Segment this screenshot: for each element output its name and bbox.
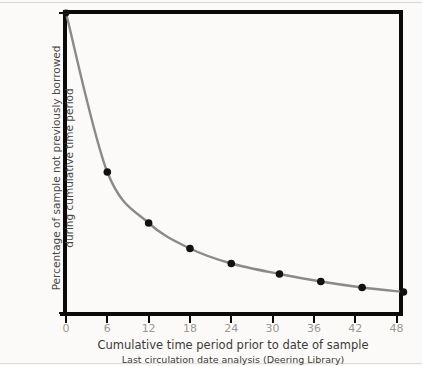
- x-tick-label: 42: [340, 323, 370, 334]
- series-line: [66, 13, 403, 292]
- x-tick-label: 6: [92, 323, 122, 334]
- x-tick-label: 30: [258, 323, 288, 334]
- x-tick-mark: [189, 316, 191, 323]
- x-axis-label: Cumulative time period prior to date of …: [6, 338, 422, 352]
- chart-figure: 0%10%20%30%40%50%60%70%80%90%100% 061218…: [0, 0, 422, 366]
- plot-area: 0%10%20%30%40%50%60%70%80%90%100% 061218…: [66, 13, 400, 313]
- data-point: [104, 168, 112, 176]
- data-point: [400, 288, 408, 296]
- x-tick-label: 48: [382, 323, 412, 334]
- data-point: [145, 219, 153, 227]
- x-tick-label: 24: [216, 323, 246, 334]
- x-tick-mark: [272, 316, 274, 323]
- x-tick-label: 12: [134, 323, 164, 334]
- series-markers: [63, 10, 408, 296]
- y-axis-label: Percentage of sample not previously borr…: [50, 3, 76, 333]
- x-tick-mark: [396, 316, 398, 323]
- x-tick-mark: [313, 316, 315, 323]
- y-axis-label-line2: during cumulative time period: [63, 3, 76, 333]
- data-point: [276, 270, 284, 278]
- x-tick-label: 36: [299, 323, 329, 334]
- x-tick-mark: [148, 316, 150, 323]
- x-axis-sublabel: Last circulation date analysis (Deering …: [6, 354, 422, 366]
- data-point: [227, 260, 235, 268]
- x-tick-mark: [106, 316, 108, 323]
- data-point: [358, 284, 366, 292]
- x-tick-label: 18: [175, 323, 205, 334]
- y-axis-label-line1: Percentage of sample not previously borr…: [50, 3, 63, 333]
- data-point: [317, 278, 325, 286]
- x-tick-mark: [230, 316, 232, 323]
- x-tick-mark: [354, 316, 356, 323]
- data-point: [186, 245, 194, 253]
- data-series-layer: [66, 13, 400, 313]
